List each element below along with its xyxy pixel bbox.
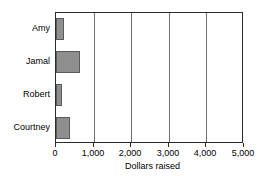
xtick-mark-5000 bbox=[243, 143, 244, 147]
bar-robert bbox=[56, 84, 62, 106]
gridline-3000 bbox=[169, 13, 170, 142]
xtick-label-0: 0 bbox=[52, 148, 57, 158]
x-axis-title-text: Dollars raised bbox=[125, 161, 180, 171]
bar-chart: Amy Jamal Robert Courtney 0 1,000 2,000 … bbox=[0, 0, 267, 176]
xtick-mark-2000 bbox=[130, 143, 131, 147]
gridline-2000 bbox=[131, 13, 132, 142]
xtick-label-2000: 2,000 bbox=[119, 148, 142, 158]
category-label-amy: Amy bbox=[32, 23, 50, 33]
xtick-label-1000: 1,000 bbox=[82, 148, 105, 158]
xtick-label-5000: 5,000 bbox=[232, 148, 255, 158]
bar-amy bbox=[56, 18, 64, 40]
x-axis-title: Dollars raised bbox=[0, 161, 267, 172]
category-label-jamal: Jamal bbox=[26, 56, 50, 66]
xtick-mark-0 bbox=[55, 143, 56, 147]
xtick-mark-1000 bbox=[93, 143, 94, 147]
bar-courtney bbox=[56, 117, 70, 139]
gridline-1000 bbox=[94, 13, 95, 142]
xtick-mark-4000 bbox=[205, 143, 206, 147]
gridline-4000 bbox=[206, 13, 207, 142]
category-label-robert: Robert bbox=[23, 89, 50, 99]
bar-jamal bbox=[56, 51, 80, 73]
xtick-label-3000: 3,000 bbox=[157, 148, 180, 158]
xtick-label-4000: 4,000 bbox=[194, 148, 217, 158]
xtick-mark-3000 bbox=[168, 143, 169, 147]
plot-area bbox=[55, 12, 243, 143]
category-label-courtney: Courtney bbox=[13, 122, 50, 132]
